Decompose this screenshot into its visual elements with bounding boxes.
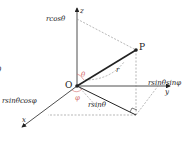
projection-line bbox=[77, 86, 136, 115]
y-projection-label: rsinθsinφ bbox=[148, 79, 181, 87]
z-axis-label: z bbox=[79, 7, 84, 15]
point-label: P bbox=[139, 42, 145, 52]
spherical-coordinates-diagram: z y x O P rcosθ rsinθsinφ rsinθcosφ r rs… bbox=[0, 0, 194, 143]
phi-arc bbox=[72, 89, 82, 92]
x-projection-label: rsinθcosφ bbox=[2, 97, 37, 105]
radius-line bbox=[77, 50, 136, 86]
theta-label: θ bbox=[81, 71, 86, 79]
z-projection-label: rcosθ bbox=[46, 15, 66, 23]
radius-label: r bbox=[116, 66, 120, 74]
projected-radius-label: rsinθ bbox=[88, 101, 107, 109]
phi-label: φ bbox=[75, 94, 80, 102]
edge-theta-glyph: θ bbox=[0, 66, 2, 74]
origin-point bbox=[75, 84, 79, 88]
origin-label: O bbox=[65, 80, 72, 90]
y-axis-label: y bbox=[164, 88, 170, 96]
point-p bbox=[134, 48, 138, 52]
x-axis-label: x bbox=[22, 116, 26, 124]
x-axis bbox=[22, 86, 77, 127]
